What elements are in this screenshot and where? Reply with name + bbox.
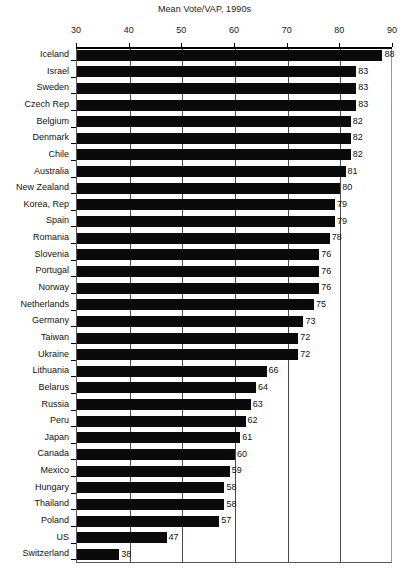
- bar-row: Iceland88: [0, 47, 409, 64]
- category-label: Sweden: [36, 82, 69, 92]
- bar: [77, 233, 330, 244]
- x-tick-label-40: 40: [114, 25, 144, 35]
- bar: [77, 382, 256, 393]
- category-tick: [71, 509, 76, 510]
- bar-row: Ukraine72: [0, 347, 409, 364]
- bar-row: Taiwan72: [0, 330, 409, 347]
- bar: [77, 399, 251, 410]
- category-tick: [71, 260, 76, 261]
- category-label: Korea, Rep: [23, 199, 69, 209]
- bar: [77, 466, 230, 477]
- x-tick-label-90: 90: [377, 25, 407, 35]
- bar-value-label: 58: [226, 499, 236, 509]
- category-label: Ukraine: [38, 349, 69, 359]
- category-label: Spain: [46, 215, 69, 225]
- bar: [77, 366, 267, 377]
- category-label: Slovenia: [34, 249, 69, 259]
- bar-row: Romania78: [0, 230, 409, 247]
- category-label: Czech Rep: [24, 99, 69, 109]
- bar: [77, 50, 382, 61]
- category-label: New Zealand: [16, 182, 69, 192]
- bar-row: Czech Rep83: [0, 97, 409, 114]
- category-tick: [71, 376, 76, 377]
- bar-row: Chile82: [0, 147, 409, 164]
- category-tick: [71, 293, 76, 294]
- category-label: US: [56, 532, 69, 542]
- bar-value-label: 66: [269, 365, 279, 375]
- category-label: Netherlands: [20, 299, 69, 309]
- bar-value-label: 72: [300, 332, 310, 342]
- bar-row: Korea, Rep79: [0, 197, 409, 214]
- category-tick: [71, 426, 76, 427]
- bar-row: Denmark82: [0, 130, 409, 147]
- category-tick: [71, 160, 76, 161]
- category-label: Denmark: [32, 132, 69, 142]
- bar-value-label: 78: [332, 232, 342, 242]
- bar-row: Lithuania66: [0, 363, 409, 380]
- category-tick: [71, 93, 76, 94]
- bar-value-label: 59: [232, 465, 242, 475]
- category-label: Taiwan: [41, 332, 69, 342]
- category-label: Portugal: [35, 265, 69, 275]
- bar-value-label: 82: [353, 149, 363, 159]
- category-tick: [71, 326, 76, 327]
- bar-row: Switzerland38: [0, 546, 409, 563]
- bar-row: Australia81: [0, 164, 409, 181]
- category-tick: [71, 60, 76, 61]
- category-tick: [71, 276, 76, 277]
- category-tick: [71, 393, 76, 394]
- bar: [77, 216, 335, 227]
- bar-row: Netherlands75: [0, 297, 409, 314]
- category-label: Chile: [48, 149, 69, 159]
- bar-row: Portugal76: [0, 263, 409, 280]
- bar-row: Belarus64: [0, 380, 409, 397]
- bar: [77, 449, 235, 460]
- category-tick: [71, 410, 76, 411]
- category-tick: [71, 343, 76, 344]
- bar-value-label: 81: [348, 166, 358, 176]
- category-label: Poland: [41, 515, 69, 525]
- bar-value-label: 82: [353, 116, 363, 126]
- category-label: Lithuania: [32, 365, 69, 375]
- category-tick: [71, 243, 76, 244]
- bar: [77, 349, 298, 360]
- bar-value-label: 58: [226, 482, 236, 492]
- bar-row: Germany73: [0, 313, 409, 330]
- category-label: Peru: [50, 415, 69, 425]
- bar-value-label: 38: [121, 549, 131, 559]
- category-tick: [71, 226, 76, 227]
- bar-value-label: 57: [221, 515, 231, 525]
- category-tick: [71, 77, 76, 78]
- category-label: Russia: [41, 399, 69, 409]
- category-label: Australia: [34, 166, 69, 176]
- bar-value-label: 82: [353, 132, 363, 142]
- x-tick-label-60: 60: [219, 25, 249, 35]
- bar-value-label: 76: [321, 266, 331, 276]
- category-tick: [71, 526, 76, 527]
- bar-row: Peru62: [0, 413, 409, 430]
- bar-row: Mexico59: [0, 463, 409, 480]
- bar-row: Canada60: [0, 446, 409, 463]
- bar: [77, 249, 319, 260]
- category-label: Belgium: [36, 116, 69, 126]
- category-label: Switzerland: [22, 548, 69, 558]
- category-label: Norway: [38, 282, 69, 292]
- bar: [77, 183, 340, 194]
- category-tick: [71, 210, 76, 211]
- bar: [77, 333, 298, 344]
- category-tick: [71, 143, 76, 144]
- bar-value-label: 88: [384, 49, 394, 59]
- bar: [77, 516, 219, 527]
- bar-value-label: 72: [300, 349, 310, 359]
- bar-value-label: 63: [253, 399, 263, 409]
- bar: [77, 83, 356, 94]
- chart-title: Mean Vote/VAP, 1990s: [0, 4, 409, 14]
- bar: [77, 532, 167, 543]
- bar: [77, 100, 356, 111]
- bar-row: Thailand58: [0, 496, 409, 513]
- bar-value-label: 75: [316, 299, 326, 309]
- x-tick-label-80: 80: [324, 25, 354, 35]
- bar-value-label: 83: [358, 99, 368, 109]
- category-label: Romania: [33, 232, 69, 242]
- bar-row: Spain79: [0, 213, 409, 230]
